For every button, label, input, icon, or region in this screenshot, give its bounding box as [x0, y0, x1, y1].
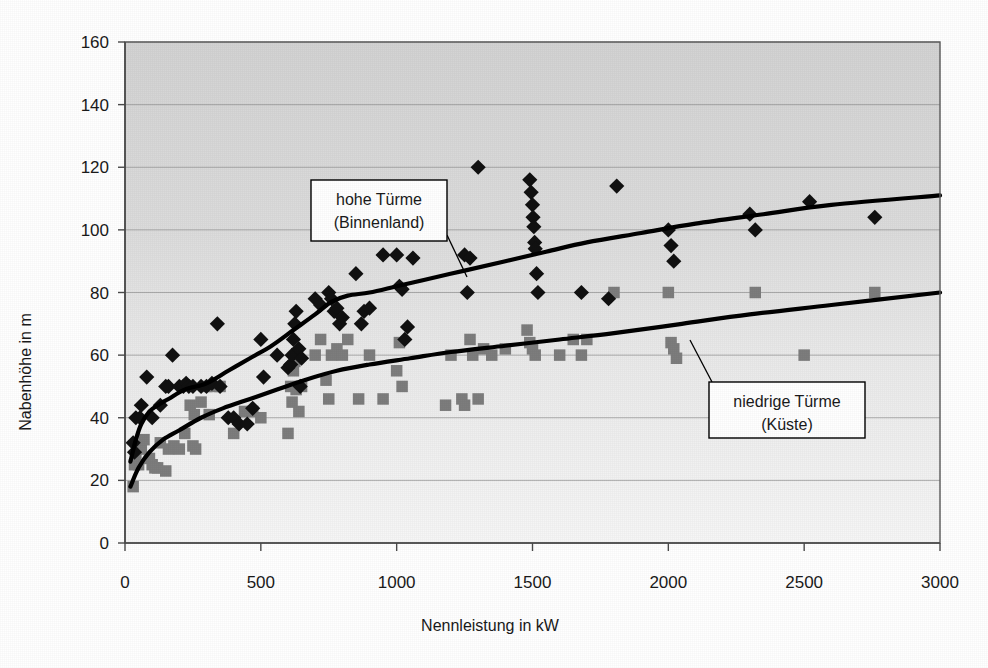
data-point-square [576, 349, 588, 361]
data-point-square [190, 443, 202, 455]
data-point-square [396, 381, 408, 393]
y-tick-label-80: 80 [90, 284, 109, 303]
data-point-square [377, 393, 389, 405]
high-towers-callout-line-0: hohe Türme [336, 191, 422, 208]
low-towers-callout-line-1: (Küste) [761, 416, 813, 433]
data-point-square [323, 393, 335, 405]
data-point-square [750, 287, 762, 299]
y-tick-label-40: 40 [90, 409, 109, 428]
data-point-square [315, 334, 327, 346]
x-tick-label-500: 500 [247, 573, 275, 592]
data-point-square [869, 287, 881, 299]
data-point-square [486, 349, 498, 361]
x-tick-label-1000: 1000 [378, 573, 416, 592]
x-tick-label-0: 0 [120, 573, 129, 592]
data-point-square [671, 353, 683, 365]
data-point-square [440, 399, 452, 411]
data-point-square [255, 412, 266, 424]
x-axis-title: Nennleistung in kW [421, 617, 560, 634]
data-point-square [521, 324, 533, 336]
data-point-square [364, 349, 376, 361]
data-point-square [160, 465, 172, 477]
y-axis-title: Nabenhöhe in m [17, 313, 34, 430]
wind-turbine-hub-height-scatter-chart: 020406080100120140160 050010001500200025… [0, 0, 988, 668]
y-tick-label-20: 20 [90, 471, 109, 490]
y-tick-label-120: 120 [81, 158, 109, 177]
data-point-square [529, 349, 541, 361]
y-tick-label-100: 100 [81, 221, 109, 240]
data-point-square [174, 443, 186, 455]
y-tick-label-160: 160 [81, 33, 109, 52]
data-point-square [798, 349, 810, 361]
data-point-square [138, 434, 150, 446]
x-tick-label-2500: 2500 [785, 573, 823, 592]
data-point-square [464, 334, 476, 346]
data-point-square [459, 399, 471, 411]
x-tick-label-3000: 3000 [921, 573, 959, 592]
y-tick-label-60: 60 [90, 346, 109, 365]
y-tick-label-0: 0 [100, 534, 109, 553]
chart-container: 020406080100120140160 050010001500200025… [0, 0, 988, 668]
data-point-square [337, 349, 349, 361]
high-towers-callout-line-1: (Binnenland) [334, 214, 425, 231]
x-tick-label-2000: 2000 [649, 573, 687, 592]
data-point-square [353, 393, 365, 405]
data-point-square [195, 396, 207, 408]
y-tick-label-140: 140 [81, 96, 109, 115]
x-tick-label-1500: 1500 [514, 573, 552, 592]
data-point-square [342, 334, 354, 346]
data-point-square [663, 287, 675, 299]
high-towers-callout-box [311, 180, 447, 241]
data-point-square [554, 349, 566, 361]
data-point-square [472, 393, 484, 405]
data-point-square [293, 406, 305, 418]
data-point-square [391, 365, 403, 377]
data-point-square [309, 349, 321, 361]
low-towers-callout-line-0: niedrige Türme [733, 393, 840, 410]
data-point-square [282, 428, 294, 440]
